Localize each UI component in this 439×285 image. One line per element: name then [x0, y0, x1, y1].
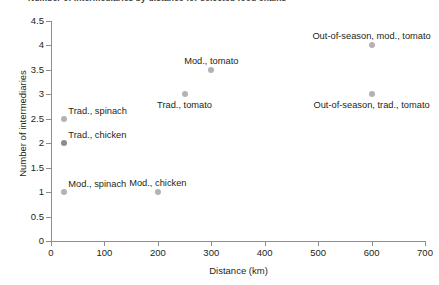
y-tick-label: 0.5 [0, 212, 44, 221]
chart-title-text: Number of intermediaries by distance for… [28, 0, 286, 3]
y-tick-mark [46, 70, 51, 71]
y-tick-mark [46, 94, 51, 95]
data-point[interactable] [208, 67, 214, 73]
data-point-label: Mod., tomato [184, 56, 238, 66]
x-axis-title: Distance (km) [51, 265, 426, 276]
y-tick-mark [46, 143, 51, 144]
y-tick-mark [46, 119, 51, 120]
data-point-label: Mod., spinach [68, 179, 126, 189]
data-point[interactable] [369, 91, 375, 97]
y-tick-mark [46, 21, 51, 22]
y-tick-mark [46, 192, 51, 193]
x-tick-mark [211, 241, 212, 246]
x-tick-mark [372, 241, 373, 246]
y-axis-title: Number of intermediaries [17, 44, 28, 204]
data-point[interactable] [61, 189, 67, 195]
x-axis-line [51, 241, 426, 242]
x-tick-mark [158, 241, 159, 246]
x-tick-label: 100 [84, 248, 124, 258]
x-tick-label: 500 [298, 248, 338, 258]
data-point-label: Trad., chicken [68, 130, 126, 140]
data-point[interactable] [61, 140, 67, 146]
x-tick-label: 400 [245, 248, 285, 258]
data-point[interactable] [61, 116, 67, 122]
x-tick-mark [265, 241, 266, 246]
data-point[interactable] [182, 91, 188, 97]
data-point[interactable] [369, 42, 375, 48]
y-tick-label: 0 [0, 236, 44, 245]
data-point-label: Out-of-season, mod., tomato [312, 31, 430, 41]
x-tick-label: 200 [138, 248, 178, 258]
x-tick-label: 300 [191, 248, 231, 258]
data-point-label: Mod., chicken [129, 178, 186, 188]
data-point-label: Trad., tomato [157, 100, 212, 110]
y-tick-mark [46, 217, 51, 218]
data-point-label: Out-of-season, trad., tomato [313, 100, 429, 110]
y-tick-label: 4.5 [0, 16, 44, 25]
y-axis-line [51, 21, 52, 242]
data-point-label: Trad., spinach [68, 106, 127, 116]
x-tick-mark [425, 241, 426, 246]
x-tick-mark [318, 241, 319, 246]
x-tick-mark [104, 241, 105, 246]
chart-title-truncated: Number of intermediaries by distance for… [0, 0, 439, 7]
y-tick-mark [46, 45, 51, 46]
y-tick-mark [46, 168, 51, 169]
x-tick-label: 600 [352, 248, 392, 258]
x-tick-mark [51, 241, 52, 246]
data-point[interactable] [155, 189, 161, 195]
x-tick-label: 700 [405, 248, 439, 258]
x-tick-label: 0 [31, 248, 71, 258]
scatter-chart: Number of intermediaries by distance for… [0, 0, 439, 285]
